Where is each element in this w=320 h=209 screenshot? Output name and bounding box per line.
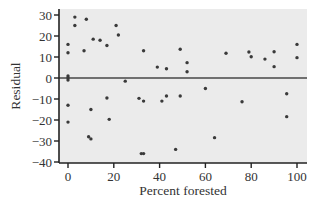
data-point <box>108 118 111 121</box>
data-point <box>85 18 88 21</box>
y-tick-label: −40 <box>32 155 52 170</box>
x-tick-label: 60 <box>199 169 212 184</box>
data-point <box>98 39 101 42</box>
data-point <box>165 94 168 97</box>
data-point <box>213 136 216 139</box>
data-point <box>285 115 288 118</box>
data-point <box>295 56 298 59</box>
y-tick-label: 20 <box>39 29 52 44</box>
y-axis-title: Residual <box>8 62 23 109</box>
data-point <box>250 55 253 58</box>
data-point <box>272 65 275 68</box>
y-axis-ticks: −40−30−20−100102030 <box>32 8 59 170</box>
data-point <box>174 148 177 151</box>
data-point <box>179 94 182 97</box>
data-point <box>82 49 85 52</box>
y-tick-label: −10 <box>32 92 52 107</box>
data-point <box>124 79 127 82</box>
data-point <box>185 70 188 73</box>
y-tick-label: −30 <box>32 134 52 149</box>
data-point <box>204 87 207 90</box>
data-point <box>117 33 120 36</box>
x-axis-ticks: 020406080100 <box>65 163 307 184</box>
data-point <box>224 52 227 55</box>
data-point <box>285 92 288 95</box>
x-tick-label: 0 <box>65 169 72 184</box>
data-point <box>73 15 76 18</box>
data-point <box>66 51 69 54</box>
data-point <box>263 57 266 60</box>
plot-area <box>59 9 307 163</box>
data-point <box>247 50 250 53</box>
y-tick-label: 30 <box>39 8 52 23</box>
data-point <box>66 104 69 107</box>
residual-scatter-plot: −40−30−20−100102030 020406080100 Percent… <box>0 0 320 209</box>
x-tick-label: 20 <box>107 169 120 184</box>
data-point <box>165 67 168 70</box>
data-point <box>142 152 145 155</box>
x-tick-label: 80 <box>245 169 258 184</box>
data-point <box>105 44 108 47</box>
data-point <box>66 78 69 81</box>
y-tick-label: 0 <box>46 71 53 86</box>
data-point <box>185 61 188 64</box>
data-point <box>160 99 163 102</box>
x-tick-label: 40 <box>153 169 166 184</box>
data-point <box>295 43 298 46</box>
x-axis-title: Percent forested <box>139 183 227 198</box>
data-point <box>66 120 69 123</box>
data-point <box>272 50 275 53</box>
data-point <box>240 100 243 103</box>
data-point <box>142 99 145 102</box>
data-point <box>142 49 145 52</box>
data-point <box>66 43 69 46</box>
data-point <box>114 24 117 27</box>
data-point <box>89 108 92 111</box>
data-point <box>91 37 94 40</box>
x-tick-label: 100 <box>287 169 307 184</box>
data-point <box>89 137 92 140</box>
data-point <box>105 96 108 99</box>
y-tick-label: −20 <box>32 113 52 128</box>
data-point <box>156 65 159 68</box>
y-tick-label: 10 <box>39 50 52 65</box>
data-point <box>179 48 182 51</box>
data-point <box>73 24 76 27</box>
data-point <box>137 97 140 100</box>
